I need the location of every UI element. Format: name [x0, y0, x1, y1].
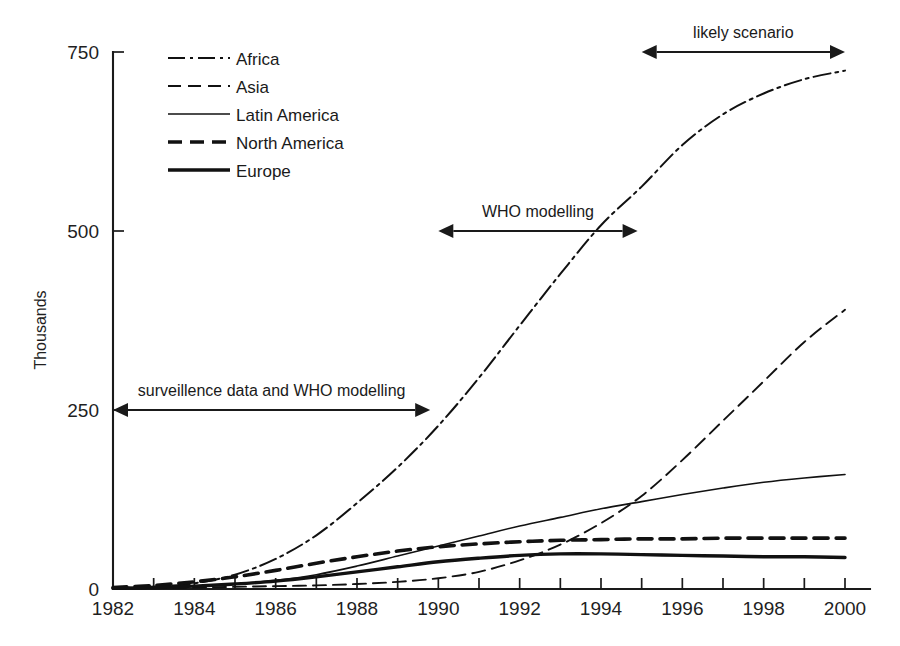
legend-label: Asia [236, 78, 270, 97]
annotation-arrowhead-right [415, 403, 430, 417]
x-tick-label: 2000 [824, 598, 866, 619]
legend-label: Europe [236, 162, 291, 181]
y-tick-label: 500 [67, 221, 99, 242]
x-tick-label: 1988 [336, 598, 378, 619]
annotation-label: likely scenario [693, 24, 794, 41]
annotation-arrowhead-right [830, 45, 845, 59]
annotation-who-modelling-span: WHO modelling [438, 203, 637, 238]
x-tick-label: 1998 [743, 598, 785, 619]
legend-label: Latin America [236, 106, 340, 125]
x-tick-label: 1982 [92, 598, 134, 619]
annotation-arrowhead-left [113, 403, 128, 417]
legend-item-latin-america[interactable]: Latin America [168, 106, 340, 125]
annotation-arrowhead-left [642, 45, 657, 59]
data-series-layer [113, 71, 845, 589]
axes [113, 52, 870, 589]
y-axis-ticks: 0250500750 [67, 42, 124, 600]
line-chart: Thousands 0250500750 1982198419861988199… [0, 0, 900, 646]
x-tick-label: 1994 [580, 598, 623, 619]
y-axis-title: Thousands [32, 290, 49, 369]
x-tick-label: 1992 [499, 598, 541, 619]
legend-item-africa[interactable]: Africa [168, 50, 280, 69]
series-line-africa [113, 71, 845, 589]
legend-item-north-america[interactable]: North America [168, 134, 344, 153]
legend-label: Africa [236, 50, 280, 69]
y-tick-label: 250 [67, 400, 99, 421]
legend-label: North America [236, 134, 344, 153]
y-tick-label: 0 [88, 579, 99, 600]
legend-item-asia[interactable]: Asia [168, 78, 270, 97]
x-tick-label: 1984 [173, 598, 216, 619]
annotation-arrowhead-left [438, 224, 453, 238]
series-line-asia [113, 310, 845, 589]
x-tick-label: 1996 [661, 598, 703, 619]
y-tick-label: 750 [67, 42, 99, 63]
annotation-likely-scenario-span: likely scenario [642, 24, 845, 59]
annotation-surveillence-span: surveillence data and WHO modelling [113, 382, 430, 417]
legend-item-europe[interactable]: Europe [168, 162, 291, 181]
chart-container: Thousands 0250500750 1982198419861988199… [0, 0, 900, 646]
chart-legend: AfricaAsiaLatin AmericaNorth AmericaEuro… [168, 50, 344, 181]
x-tick-label: 1986 [255, 598, 297, 619]
y-axis-title-text: Thousands [32, 290, 49, 369]
annotation-label: surveillence data and WHO modelling [138, 382, 406, 399]
annotation-label: WHO modelling [482, 203, 594, 220]
annotation-layer: surveillence data and WHO modellingWHO m… [113, 24, 845, 417]
annotation-arrowhead-right [623, 224, 638, 238]
x-tick-label: 1990 [417, 598, 459, 619]
